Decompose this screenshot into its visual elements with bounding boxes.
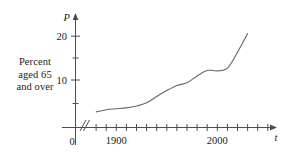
x-axis-arrowhead bbox=[270, 125, 277, 131]
data-curve bbox=[96, 33, 248, 112]
y-axis-caption-line-2: aged 65 bbox=[4, 69, 66, 82]
x-tick-label-1900: 1900 bbox=[106, 135, 127, 146]
y-axis-caption-line-1: Percent bbox=[4, 56, 66, 69]
chart-figure: Percent aged 65 and over 20 10 0 P t bbox=[0, 0, 285, 162]
x-axis-break-slash-1 bbox=[80, 120, 86, 131]
y-axis-arrowhead bbox=[73, 13, 79, 20]
y-tick-label-20: 20 bbox=[57, 31, 68, 42]
origin-label: 0 bbox=[69, 136, 74, 147]
y-axis-name: P bbox=[63, 12, 71, 23]
x-tick-label-2000: 2000 bbox=[207, 135, 228, 146]
y-axis-caption-line-3: and over bbox=[4, 81, 66, 94]
y-axis-caption: Percent aged 65 and over bbox=[4, 56, 66, 94]
x-axis-break-slash-2 bbox=[84, 120, 90, 131]
x-axis-name: t bbox=[275, 132, 279, 143]
